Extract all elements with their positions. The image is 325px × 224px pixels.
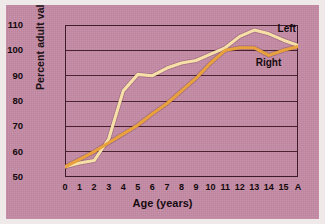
y-tick-label: 60 [6, 147, 23, 157]
y-tick-label: 110 [6, 20, 23, 30]
y-tick-label: 70 [6, 121, 23, 131]
y-axis-title: Percent adult value [34, 5, 46, 111]
series-label-left: Left [278, 23, 296, 34]
y-tick-label: 50 [6, 172, 23, 182]
plot-area [65, 25, 298, 177]
y-tick-label: 80 [6, 96, 23, 106]
series-label-right: Right [256, 57, 282, 68]
x-tick-label: A [288, 183, 308, 192]
chart-canvas [65, 25, 298, 177]
y-tick-label: 90 [6, 71, 23, 81]
x-axis-title: Age (years) [6, 197, 319, 209]
chart-figure: Percent adult value 5060708090100110 012… [6, 5, 319, 219]
y-tick-label: 100 [6, 45, 23, 55]
